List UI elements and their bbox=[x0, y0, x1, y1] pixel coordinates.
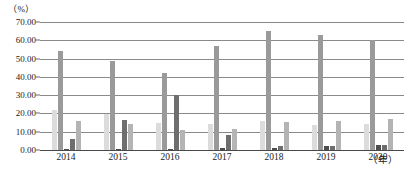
y-axis-tick-label: 20.00 bbox=[16, 108, 36, 118]
y-axis-tick-label: 50.00 bbox=[16, 54, 36, 64]
bar-series-2-2018 bbox=[266, 31, 271, 150]
bar-series-4-2019 bbox=[330, 146, 335, 150]
x-axis-label-2015: 2015 bbox=[92, 152, 144, 162]
bar-series-1-2014 bbox=[52, 110, 57, 150]
x-axis-label-2014: 2014 bbox=[40, 152, 92, 162]
bar-series-5-2014 bbox=[76, 121, 81, 150]
bar-group-2018 bbox=[248, 22, 300, 150]
bar-series-3-2019 bbox=[324, 146, 329, 150]
bar-series-2-2015 bbox=[110, 61, 115, 150]
y-axis-unit-label: （%） bbox=[8, 2, 35, 15]
bar-series-1-2015 bbox=[104, 114, 109, 150]
bar-series-3-2015 bbox=[116, 149, 121, 150]
bar-series-3-2020 bbox=[376, 145, 381, 150]
y-axis-tick-label: 10.00 bbox=[16, 127, 36, 137]
bar-group-2014 bbox=[40, 22, 92, 150]
bar-series-5-2019 bbox=[336, 121, 341, 150]
bar-group-2016 bbox=[144, 22, 196, 150]
bar-series-4-2016 bbox=[174, 95, 179, 150]
y-axis-tick-label: 60.00 bbox=[16, 35, 36, 45]
y-axis-tick-label: 0.00 bbox=[20, 145, 36, 155]
bar-series-3-2016 bbox=[168, 149, 173, 150]
gridline bbox=[40, 150, 404, 151]
bar-series-5-2015 bbox=[128, 124, 133, 150]
bar-series-4-2017 bbox=[226, 135, 231, 150]
bar-series-2-2016 bbox=[162, 73, 167, 150]
bar-series-5-2020 bbox=[388, 119, 393, 150]
y-axis-tick-label: 30.00 bbox=[16, 90, 36, 100]
bar-group-2015 bbox=[92, 22, 144, 150]
bar-series-1-2018 bbox=[260, 121, 265, 150]
bar-series-4-2015 bbox=[122, 120, 127, 150]
bar-series-3-2017 bbox=[220, 148, 225, 150]
bar-series-1-2020 bbox=[364, 124, 369, 150]
bar-series-5-2016 bbox=[180, 130, 185, 150]
bar-series-5-2018 bbox=[284, 122, 289, 150]
bar-series-2-2019 bbox=[318, 35, 323, 150]
y-axis-tick-label: 70.00 bbox=[16, 17, 36, 27]
bar-series-1-2017 bbox=[208, 124, 213, 151]
bar-series-3-2018 bbox=[272, 148, 277, 150]
x-axis-label-2017: 2017 bbox=[196, 152, 248, 162]
bar-series-1-2016 bbox=[156, 123, 161, 150]
bar-series-3-2014 bbox=[64, 149, 69, 150]
x-axis-labels: 2014201520162017201820192020 bbox=[40, 152, 404, 162]
x-axis-unit-label: （年） bbox=[368, 152, 398, 166]
bar-series-4-2018 bbox=[278, 146, 283, 150]
bar-series-4-2014 bbox=[70, 139, 75, 150]
bar-series-4-2020 bbox=[382, 145, 387, 150]
bar-group-2019 bbox=[300, 22, 352, 150]
bar-series-2-2014 bbox=[58, 51, 63, 150]
x-axis-label-2019: 2019 bbox=[300, 152, 352, 162]
x-axis-label-2018: 2018 bbox=[248, 152, 300, 162]
bar-series-2-2020 bbox=[370, 40, 375, 150]
bar-groups bbox=[40, 22, 404, 150]
bar-group-2020 bbox=[352, 22, 404, 150]
bar-group-2017 bbox=[196, 22, 248, 150]
bar-chart: （%） 0.0010.0020.0030.0040.0050.0060.0070… bbox=[0, 0, 408, 178]
x-axis-label-2016: 2016 bbox=[144, 152, 196, 162]
bar-series-5-2017 bbox=[232, 129, 237, 150]
y-axis-tick-label: 40.00 bbox=[16, 72, 36, 82]
bar-series-1-2019 bbox=[312, 125, 317, 150]
plot-area: 0.0010.0020.0030.0040.0050.0060.0070.00 bbox=[40, 22, 404, 150]
bar-series-2-2017 bbox=[214, 46, 219, 150]
